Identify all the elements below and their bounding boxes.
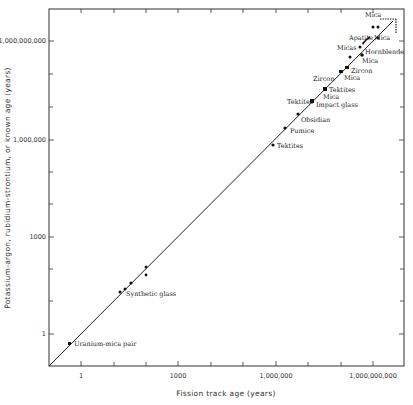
y-tick-1e6: 1,000,000 (13, 136, 46, 144)
label-uranium-mica: Uranium-mica pair (74, 340, 137, 348)
x-axis-title: Fission track age (years) (176, 389, 275, 398)
label-mica-apatite: Mica (374, 34, 390, 42)
y-axis-title: Potassium-argon, rubidium-strontium, or … (3, 67, 12, 309)
y-tick-1: 1 (42, 330, 46, 338)
label-impact-glass: Impact glass (316, 101, 358, 109)
scatter-chart: 1 1000 1,000,000 1,000,000,000 1 1000 1,… (0, 0, 413, 405)
label-hornblende: Hornblende (365, 48, 404, 56)
x-tick-1000: 1000 (170, 372, 187, 380)
label-micas: Micas (337, 44, 357, 52)
label-obsidian: Obsidian (301, 116, 330, 124)
label-tektites-left: Tektites (287, 98, 313, 106)
label-synthetic-glass: Synthetic glass (126, 290, 176, 298)
y-tick-1000: 1000 (29, 233, 46, 241)
x-tick-1: 1 (79, 372, 83, 380)
data-points (68, 26, 380, 346)
x-tick-1e6: 1,000,000 (259, 372, 292, 380)
label-tektites-low: Tektites (277, 142, 303, 150)
label-zircon-left: Zircon (313, 75, 334, 83)
x-tick-1e9: 1,000,000,000 (349, 372, 397, 380)
label-mica-top: Mica (365, 11, 381, 19)
y-tick-1e9: 1,000,000,000 (0, 37, 46, 45)
label-mica-zircon: Mica (344, 74, 360, 82)
label-apatite: Apatite (348, 34, 373, 42)
label-mica-hornblende: Mica (362, 57, 378, 65)
label-pumice: Pumice (290, 127, 314, 135)
label-mica-mid: Mica (323, 93, 339, 101)
